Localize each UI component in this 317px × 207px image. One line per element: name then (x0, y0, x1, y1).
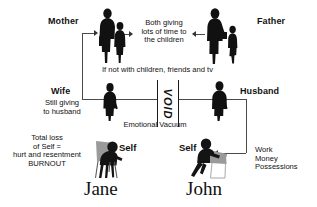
husband-silhouette-icon (208, 81, 232, 121)
label-husband: Husband (240, 86, 279, 96)
void-label: VOID (162, 88, 174, 119)
note-jane-outcome: Total loss of Self = hurt and resentment… (3, 134, 91, 168)
wife-silhouette-icon (100, 83, 122, 121)
note-both-giving-time: Both giving lots of time to the children (135, 19, 193, 45)
label-name-jane: Jane (84, 178, 118, 199)
connector-wife-to-mother-vertical (82, 33, 83, 99)
label-wife: Wife (51, 86, 70, 96)
connector-husband-right (231, 99, 247, 100)
label-name-john: John (186, 178, 222, 199)
connector-husband-down (246, 99, 247, 153)
label-self-john: Self (179, 143, 196, 154)
label-self-jane: Self (119, 143, 136, 154)
label-father: Father (257, 16, 285, 26)
arrow-mother-to-text-icon (129, 31, 133, 37)
note-emotional-vacuum: Emotional Vacuum (105, 121, 205, 130)
mother-and-child-silhouette-icon (97, 8, 127, 64)
relationship-diagram-canvas: VOID (0, 0, 317, 207)
note-john-outcome: Work Money Possessions (255, 146, 315, 172)
label-mother: Mother (48, 16, 79, 26)
note-still-giving-to-husband: Still giving to husband (27, 99, 97, 116)
note-if-not-with-children: If not with children, friends and tv (85, 66, 230, 75)
father-and-child-silhouette-icon (203, 8, 238, 64)
